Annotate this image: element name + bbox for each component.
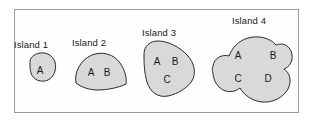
island-4-region-a: A [235,50,242,61]
island-label-3: Island 3 [142,27,176,38]
island-2-region-b: B [104,67,111,78]
islands-diagram: Island 1 A Island 2 A B Island 3 A B C I… [0,0,313,123]
island-4-region-b: B [270,50,277,61]
island-3-region-b: B [172,56,179,67]
island-label-1: Island 1 [14,39,48,50]
island-1-region-a: A [37,65,44,76]
island-3-region-a: A [154,56,161,67]
island-label-4: Island 4 [232,15,266,26]
island-3-region-c: C [163,74,170,85]
island-2-region-a: A [88,67,95,78]
island-4-region-d: D [264,73,271,84]
island-label-2: Island 2 [72,37,106,48]
diagram-canvas: Island 1 A Island 2 A B Island 3 A B C I… [0,0,313,123]
island-4-region-c: C [234,73,241,84]
